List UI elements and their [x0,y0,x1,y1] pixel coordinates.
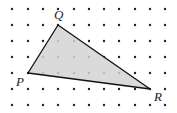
grid-dot [88,104,90,106]
grid-dot [134,8,136,10]
grid-dot [11,24,13,26]
grid-dot [73,88,75,90]
grid-dot [73,24,75,26]
grid-dot [149,40,151,42]
grid-dot [42,88,44,90]
grid-dot [88,24,90,26]
grid-dot [42,104,44,106]
grid-dot [134,88,136,90]
grid-dot [164,72,166,74]
vertex-label-q: Q [54,7,64,22]
grid-dot [149,56,151,58]
grid-dot [27,24,29,26]
grid-dot [73,8,75,10]
grid-dot [149,8,151,10]
vertex-label-r: R [153,89,162,104]
grid-dot [88,88,90,90]
grid-dot [27,104,29,106]
grid-dot [103,24,105,26]
grid-dot [134,72,136,74]
grid-dot [164,8,166,10]
grid-dot [57,104,59,106]
grid-dot [88,40,90,42]
grid-dot [27,40,29,42]
grid-dot [27,56,29,58]
grid-dot [88,8,90,10]
grid-dot [164,104,166,106]
grid-dot [164,40,166,42]
grid-dot [134,40,136,42]
grid-dot [118,88,120,90]
grid-dot [149,24,151,26]
grid-dot [149,72,151,74]
grid-dot [103,8,105,10]
grid-dot [11,104,13,106]
grid-dot [103,88,105,90]
grid-dot [103,40,105,42]
grid-dot [11,40,13,42]
grid-dot [11,8,13,10]
grid-dot [118,104,120,106]
grid-dot [42,8,44,10]
grid-dot [164,24,166,26]
grid-dot [134,104,136,106]
grid-dot [103,104,105,106]
grid-dot [134,24,136,26]
grid-dot [164,88,166,90]
grid-dot [118,24,120,26]
grid-dot [11,72,13,74]
triangle-pqr [28,25,150,89]
grid-dot [11,56,13,58]
grid-dot [27,88,29,90]
grid-dot [73,104,75,106]
grid-dot [149,104,151,106]
grid-dot [11,88,13,90]
grid-dot [118,8,120,10]
grid-dot [57,88,59,90]
grid-dot [42,24,44,26]
dot-grid-diagram: Q P R [0,0,177,113]
grid-dot [118,56,120,58]
grid-dot [27,8,29,10]
grid-dot [164,56,166,58]
grid-dot [118,40,120,42]
grid-dot [134,56,136,58]
vertex-label-p: P [15,74,24,89]
grid-dot [42,40,44,42]
